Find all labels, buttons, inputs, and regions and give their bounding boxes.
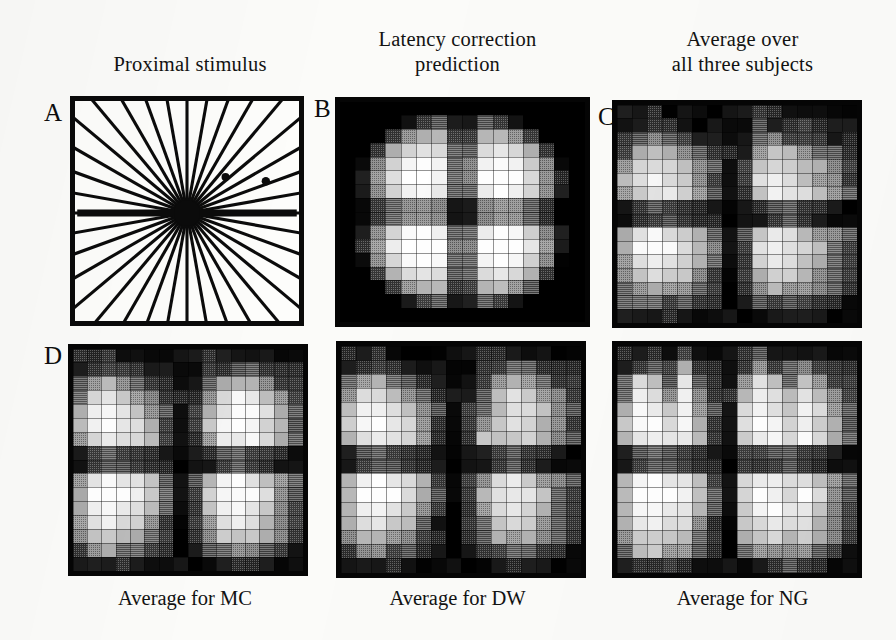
panel-c-title: Average over all three subjects bbox=[610, 27, 875, 77]
panel-e-caption: Average for DW bbox=[320, 586, 595, 610]
heatmap-average-mc bbox=[68, 344, 308, 576]
probe-dot-left bbox=[222, 173, 230, 181]
radial-stimulus-graphic bbox=[75, 101, 299, 321]
panel-d-caption: Average for MC bbox=[55, 586, 315, 610]
figure-root: Proximal stimulus Latency correction pre… bbox=[0, 0, 896, 640]
heatmap-average-ng bbox=[612, 341, 862, 578]
panel-d-average-mc bbox=[68, 344, 308, 576]
panel-c-average-all-subjects bbox=[612, 100, 862, 328]
panel-f-caption: Average for NG bbox=[610, 586, 875, 610]
probe-dot-right bbox=[262, 177, 270, 185]
panel-a-proximal-stimulus bbox=[70, 96, 304, 326]
panel-a-title: Proximal stimulus bbox=[60, 52, 320, 77]
panel-f-average-ng bbox=[612, 341, 862, 578]
panel-b-title: Latency correction prediction bbox=[320, 27, 595, 77]
heatmap-average-dw bbox=[336, 341, 586, 578]
heatmap-latency-prediction bbox=[335, 97, 590, 327]
panel-letter-a: A bbox=[44, 100, 62, 125]
panel-e-average-dw bbox=[336, 341, 586, 578]
panel-letter-b: B bbox=[314, 96, 331, 121]
panel-letter-d: D bbox=[44, 343, 62, 368]
heatmap-average-all-subjects bbox=[612, 100, 862, 328]
panel-b-latency-correction-prediction bbox=[335, 97, 590, 327]
